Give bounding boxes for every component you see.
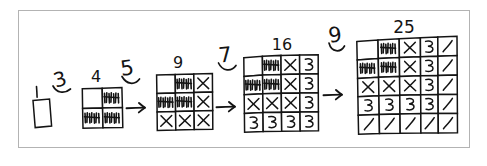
arrow-1-group [127, 103, 145, 112]
gnomon-label-9-group: 9 [327, 22, 344, 50]
step-9-group: 9 [157, 53, 213, 130]
cell-step1-r0c0 [33, 99, 52, 128]
sketch-drawing: 1 3 4 5 9 [0, 0, 487, 166]
step-25-size-label: 25 [393, 17, 415, 37]
cell-step16-r0c0 [244, 56, 263, 76]
arrow-right-icon-1 [127, 103, 145, 112]
gnomon-label-5: 5 [119, 55, 136, 81]
arrow-right-icon-3 [324, 90, 342, 99]
arrow-3-group [324, 90, 342, 99]
cell-step25-r0c0 [357, 40, 379, 60]
cell-step4-r0c0 [82, 88, 102, 108]
sketch-canvas: 1 3 4 5 9 [0, 0, 487, 166]
arrow-right-icon-2 [217, 102, 235, 111]
gnomon-label-3-group: 3 [51, 66, 71, 93]
step-16-group: 16 [244, 35, 319, 132]
arrow-2-group [217, 102, 235, 111]
gnomon-label-7-group: 7 [217, 42, 236, 70]
step-4-size-label: 4 [91, 67, 101, 86]
gnomon-label-5-group: 5 [119, 55, 140, 83]
step-9-size-label: 9 [173, 53, 183, 72]
unit-tick-mark [37, 87, 38, 98]
step-1-group: 1 [33, 87, 52, 128]
cell-step9-r0c0 [157, 74, 176, 93]
gnomon-label-3: 3 [51, 66, 70, 93]
step-4-group: 4 [82, 67, 123, 128]
step-16-size-label: 16 [272, 35, 292, 54]
step-25-group: 25 [357, 17, 458, 134]
